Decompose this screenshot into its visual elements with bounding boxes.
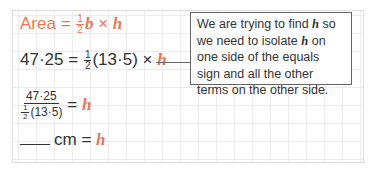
denominator: 2 [23,113,27,121]
denominator: 2 [85,61,91,71]
callout-connector [156,62,190,63]
equals-sign: = [81,130,91,149]
area-formula: Area = 12b × h [20,14,122,35]
var-h: h [157,50,166,69]
equals-sign: = [67,95,77,114]
answer-line: cm = h [20,130,106,150]
var-h: h [96,130,105,149]
base-value: (13·5) [30,105,62,119]
substituted-equation: 47·25 = 12(13·5) × h [20,50,167,71]
half-fraction: 12 [76,14,84,35]
division-fraction: 47·25 12(13·5) [20,90,62,121]
area-label: Area [20,14,56,33]
callout-text: We are trying to find [197,17,312,31]
base-value: (13·5) [92,50,137,69]
rearranged-equation: 47·25 12(13·5) = h [20,90,91,121]
denominator: 2 [77,25,83,35]
times-sign: × [98,14,108,33]
var-b: b [85,14,94,33]
answer-blank[interactable] [20,130,50,145]
half-fraction: 12 [21,104,29,121]
numerator: 47·25 [24,90,59,104]
var-h: h [82,95,91,114]
denominator: 12(13·5) [20,104,62,121]
equals-sign: = [68,50,78,69]
times-sign: × [143,50,153,69]
unit-label: cm [54,130,77,149]
var-h: h [113,14,122,33]
explanation-callout: We are trying to find h so we need to is… [190,12,352,85]
half-fraction: 12 [84,50,92,71]
area-value: 47·25 [20,50,63,69]
equals-sign: = [61,14,71,33]
